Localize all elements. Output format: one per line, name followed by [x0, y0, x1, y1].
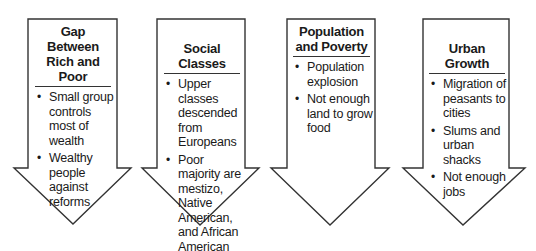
arrow-1-content: Gap Between Rich and Poor Small group co… [32, 24, 114, 212]
arrow-1-title: Gap Between Rich and Poor [35, 24, 111, 87]
bullet-item: Not enough land to grow food [290, 92, 373, 136]
arrow-2-title: Social Classes [164, 41, 240, 74]
arrow-4-bullets: Migration of peasants to cities Slums an… [426, 77, 508, 199]
bullet-item: Slums and urban shacks [426, 124, 508, 168]
bullet-item: Population explosion [290, 60, 373, 89]
arrow-4-title: Urban Growth [429, 41, 505, 74]
arrow-1-bullets: Small group controls most of wealth Weal… [32, 90, 114, 209]
bullet-item: Wealthy people against reforms [32, 151, 114, 209]
bullet-item: Upper classes descended from Europeans [161, 77, 243, 150]
bullet-item: Poor majority are mestizo, Native Americ… [161, 153, 243, 251]
arrow-4-content: Urban Growth Migration of peasants to ci… [426, 41, 508, 202]
bullet-item: Small group controls most of wealth [32, 90, 114, 148]
arrow-2-content: Social Classes Upper classes descended f… [161, 41, 243, 251]
arrow-2-bullets: Upper classes descended from Europeans P… [161, 77, 243, 251]
arrow-3-content: Population and Poverty Population explos… [290, 24, 373, 139]
arrow-3-bullets: Population explosion Not enough land to … [290, 60, 373, 136]
bullet-item: Not enough jobs [426, 170, 508, 199]
arrow-3-title: Population and Poverty [293, 24, 370, 57]
bullet-item: Migration of peasants to cities [426, 77, 508, 121]
